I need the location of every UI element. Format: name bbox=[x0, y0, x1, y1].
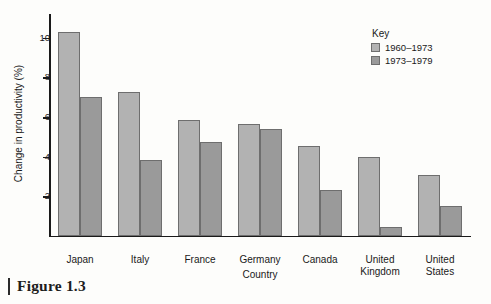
bar bbox=[58, 32, 80, 236]
legend-item: 1973–1979 bbox=[371, 56, 486, 66]
bar-group bbox=[170, 14, 230, 236]
bar-group bbox=[50, 14, 110, 236]
bar bbox=[358, 157, 380, 236]
bar bbox=[118, 92, 140, 236]
bar bbox=[80, 97, 102, 236]
bar bbox=[238, 124, 260, 236]
legend-swatch bbox=[371, 56, 380, 65]
legend-items: 1960–19731973–1979 bbox=[371, 43, 486, 65]
legend-item: 1960–1973 bbox=[371, 43, 486, 53]
bar-group bbox=[290, 14, 350, 236]
figure-page: 246810 Change in productivity (%) JapanI… bbox=[0, 0, 491, 304]
bar-group bbox=[110, 14, 170, 236]
legend-swatch bbox=[371, 43, 380, 52]
legend-label: 1973–1979 bbox=[385, 56, 433, 66]
legend-label: 1960–1973 bbox=[385, 43, 433, 53]
legend: Key 1960–19731973–1979 bbox=[371, 28, 486, 68]
y-axis-title: Change in productivity (%) bbox=[13, 44, 24, 204]
bar bbox=[298, 146, 320, 236]
caption-rule bbox=[8, 278, 10, 295]
y-tick-label: 4 bbox=[24, 152, 50, 162]
bar bbox=[440, 206, 462, 236]
y-tick-label: 6 bbox=[24, 112, 50, 122]
y-tick-label: 8 bbox=[24, 72, 50, 82]
figure-caption: Figure 1.3 bbox=[8, 277, 86, 295]
bar bbox=[320, 190, 342, 236]
caption-label: Figure 1.3 bbox=[17, 277, 86, 295]
legend-title: Key bbox=[371, 28, 486, 39]
bar-chart: 246810 Change in productivity (%) JapanI… bbox=[0, 0, 491, 270]
y-tick-label: 10 bbox=[24, 33, 50, 43]
bar bbox=[380, 227, 402, 236]
bar bbox=[178, 120, 200, 236]
bar bbox=[260, 129, 282, 236]
y-tick-label: 2 bbox=[24, 191, 50, 201]
bar-group bbox=[230, 14, 290, 236]
bar bbox=[140, 160, 162, 236]
bar bbox=[200, 142, 222, 236]
x-axis-title: Country bbox=[49, 269, 471, 280]
bar bbox=[418, 175, 440, 236]
